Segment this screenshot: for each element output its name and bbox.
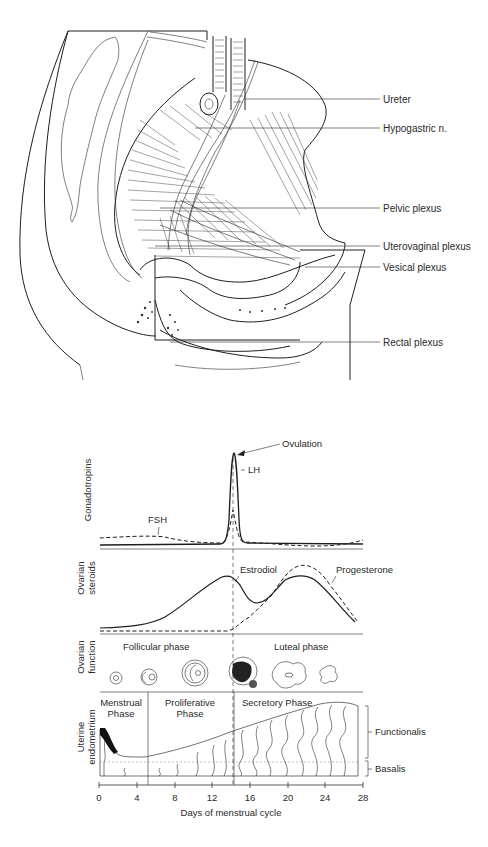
annotation-estradiol: Estrodiol (240, 564, 277, 575)
fsh-curve (100, 510, 363, 546)
annotation-ovulation: Ovulation (282, 438, 322, 449)
annotation-fsh: FSH (148, 514, 167, 525)
annotation-luteal-phase: Luteal phase (274, 641, 328, 652)
menstrual-shedding (100, 728, 118, 754)
panel-label-ovarian-steroids-line1: Ovarian (75, 561, 86, 594)
functionalis-bracket (365, 706, 368, 758)
annotation-follicular-phase: Follicular phase (123, 641, 190, 652)
endometrium-outline (100, 702, 358, 776)
label-ureter: Ureter (383, 94, 411, 105)
panel-label-gonadotropins: Gonadotropins (82, 459, 93, 522)
x-tick-20: 20 (283, 792, 294, 803)
endometrial-glands (104, 705, 346, 776)
annotation-proliferative-line1: Proliferative (165, 697, 215, 708)
estradiol-curve (100, 576, 355, 628)
x-tick-24: 24 (320, 792, 331, 803)
label-vesical-plexus: Vesical plexus (383, 262, 446, 273)
rectal-stipple (137, 301, 286, 336)
fsh-leader (158, 527, 159, 535)
panel-label-ovarian-steroids-line2: steroids (86, 561, 97, 595)
primordial-follicle-icon (110, 672, 122, 684)
x-tick-16: 16 (245, 792, 256, 803)
basalis-bracket (365, 761, 368, 776)
nerve-strands (160, 60, 300, 265)
annotation-progesterone: Progesterone (336, 564, 393, 575)
annotation-basalis: Basalis (375, 763, 406, 774)
ovulation-arrow-line (240, 444, 280, 454)
x-axis-label: Days of menstrual cycle (181, 807, 282, 818)
ovulation-arrowhead-icon (237, 450, 245, 456)
label-hypogastric-nerve: Hypogastric n. (383, 123, 447, 134)
x-tick-28: 28 (358, 792, 369, 803)
annotation-menstrual-line2: Phase (108, 708, 135, 719)
label-rectal-plexus: Rectal plexus (383, 337, 443, 348)
corpus-luteum-icon (272, 662, 306, 688)
lh-curve (100, 453, 363, 545)
figure-canvas: Ureter Hypogastric n. Pelvic plexus Uter… (0, 0, 488, 847)
x-tick-4: 4 (134, 792, 139, 803)
annotation-lh: LH (248, 464, 260, 475)
panel-label-ovarian-function-line1: Ovarian (75, 640, 86, 673)
primary-follicle-icon (141, 669, 157, 685)
corpus-albicans-icon (320, 666, 337, 684)
x-tick-0: 0 (96, 792, 101, 803)
progesterone-curve (100, 565, 358, 631)
annotation-proliferative-line2: Phase (177, 708, 204, 719)
panel-label-ovarian-function-line2: function (86, 640, 97, 673)
pelvic-anatomy-illustration: Ureter Hypogastric n. Pelvic plexus Uter… (20, 31, 471, 380)
follicle-stages (110, 657, 337, 688)
annotation-functionalis: Functionalis (375, 726, 426, 737)
label-pelvic-plexus: Pelvic plexus (383, 203, 441, 214)
annotation-secretory: Secretory Phase (242, 697, 312, 708)
panel-label-uterine-line2: endometrium (86, 709, 97, 765)
annotation-menstrual-line1: Menstrual (100, 697, 142, 708)
menstrual-cycle-chart: Gonadotropins Ovarian steroids Ovarian f… (75, 438, 426, 818)
x-tick-12: 12 (207, 792, 218, 803)
label-uterovaginal-plexus: Uterovaginal plexus (383, 241, 471, 252)
x-tick-8: 8 (172, 792, 177, 803)
progesterone-leader (332, 576, 336, 583)
panel-label-uterine-line1: Uterine (75, 722, 86, 753)
antral-follicle-icon (182, 660, 208, 686)
muscle-hatching (128, 104, 318, 258)
x-axis: 0 4 8 12 16 20 24 28 Days of menstrual c… (96, 782, 368, 818)
